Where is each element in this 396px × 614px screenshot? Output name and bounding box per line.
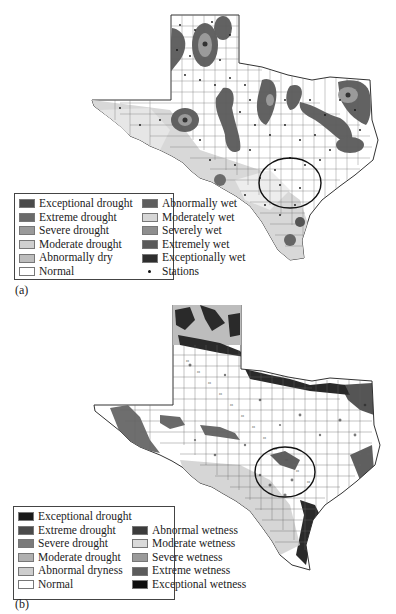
swatch-normal	[19, 267, 35, 276]
legend-a-right-column: Abnormally wet Moderately wet Severely w…	[142, 197, 245, 279]
svg-text:xx: xx	[307, 480, 311, 484]
legend-item: Severely wet	[142, 224, 245, 238]
legend-item: Moderately wet	[142, 211, 245, 225]
legend-item: Extreme wetness	[132, 564, 246, 578]
legend-item: Abnormal wetness	[132, 524, 246, 538]
legend-item: Extreme drought	[19, 211, 133, 225]
legend-b-left-column: Exceptional drought Extreme drought Seve…	[18, 510, 132, 592]
legend-item: Moderate drought	[19, 238, 133, 252]
legend-item: Exceptional drought	[18, 510, 132, 524]
station-dot-icon	[142, 267, 158, 276]
panel-b: xxxxxxxx xxxxxxxx xxxxxxxx Exceptional d…	[0, 305, 396, 614]
legend-item: Abnormally wet	[142, 197, 245, 211]
legend-item: Normal	[18, 578, 132, 592]
svg-text:xx: xx	[252, 425, 256, 429]
swatch-severe-drought	[18, 539, 34, 548]
legend-b-right-column: Abnormal wetness Moderate wetness Severe…	[132, 524, 246, 592]
swatch-exceptional-drought	[19, 199, 35, 208]
legend-a-left-column: Exceptional drought Extreme drought Seve…	[19, 197, 133, 279]
swatch-moderate-drought	[18, 553, 34, 562]
legend-item: Severe wetness	[132, 551, 246, 565]
swatch-exceptional-drought	[18, 512, 34, 521]
svg-text:xx: xx	[186, 359, 190, 363]
legend-a: Exceptional drought Extreme drought Seve…	[14, 193, 174, 280]
legend-item: Severe drought	[19, 224, 133, 238]
swatch-abnormally-wet	[142, 199, 158, 208]
legend-item: Exceptional wetness	[132, 578, 246, 592]
legend-item: Exceptional drought	[19, 197, 133, 211]
svg-text:xx: xx	[197, 370, 201, 374]
svg-text:xx: xx	[208, 381, 212, 385]
legend-item: Extremely wet	[142, 238, 245, 252]
svg-text:xx: xx	[219, 392, 223, 396]
swatch-extreme-drought	[18, 526, 34, 535]
swatch-extreme-wetness	[132, 567, 148, 576]
legend-item: Moderate drought	[18, 551, 132, 565]
swatch-exceptional-wetness	[132, 580, 148, 589]
swatch-severe-wetness	[132, 553, 148, 562]
legend-b: Exceptional drought Extreme drought Seve…	[13, 506, 175, 600]
caption-a: (a)	[15, 283, 28, 298]
svg-text:xx: xx	[241, 414, 245, 418]
caption-b: (b)	[15, 597, 29, 612]
swatch-abnormally-dry	[19, 254, 35, 263]
swatch-moderate-wetness	[132, 539, 148, 548]
swatch-severe-drought	[19, 226, 35, 235]
swatch-exceptionally-wet	[142, 254, 158, 263]
swatch-normal	[18, 580, 34, 589]
swatch-moderately-wet	[142, 213, 158, 222]
svg-text:xx: xx	[230, 403, 234, 407]
svg-text:xx: xx	[296, 469, 300, 473]
svg-text:xx: xx	[285, 458, 289, 462]
legend-item: Abnormal dryness	[18, 564, 132, 578]
legend-item: Stations	[142, 265, 245, 279]
panel-a: Exceptional drought Extreme drought Seve…	[0, 0, 396, 300]
swatch-abnormal-wetness	[132, 526, 148, 535]
swatch-moderate-drought	[19, 240, 35, 249]
swatch-severely-wet	[142, 226, 158, 235]
legend-item: Abnormally dry	[19, 251, 133, 265]
legend-item: Normal	[19, 265, 133, 279]
swatch-extremely-wet	[142, 240, 158, 249]
swatch-abnormal-dryness	[18, 567, 34, 576]
legend-item: Exceptionally wet	[142, 251, 245, 265]
legend-item: Extreme drought	[18, 524, 132, 538]
legend-item: Moderate wetness	[132, 537, 246, 551]
svg-text:xx: xx	[263, 436, 267, 440]
swatch-extreme-drought	[19, 213, 35, 222]
legend-item: Severe drought	[18, 537, 132, 551]
